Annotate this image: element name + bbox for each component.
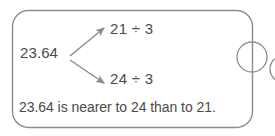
branch-label-lower: 24 ÷ 3 <box>110 70 153 87</box>
circle-on-right-border <box>237 42 267 72</box>
branch-arrow-lower <box>70 60 104 83</box>
source-node-label: 23.64 <box>20 44 58 61</box>
conclusion-statement: 23.64 is nearer to 24 than to 21. <box>19 99 216 115</box>
branch-label-upper: 21 ÷ 3 <box>110 20 153 37</box>
clipped-circle-at-image-edge <box>270 56 275 82</box>
branch-arrow-upper <box>70 28 104 56</box>
diagram-canvas: 23.64 21 ÷ 3 24 ÷ 3 23.64 is nearer to 2… <box>0 0 275 136</box>
